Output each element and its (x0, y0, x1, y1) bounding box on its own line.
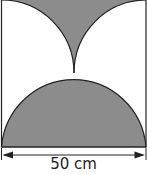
dimension-label: 50 cm (0, 155, 147, 174)
bottom-semicircle (2, 80, 147, 147)
geometry-diagram (0, 0, 147, 174)
